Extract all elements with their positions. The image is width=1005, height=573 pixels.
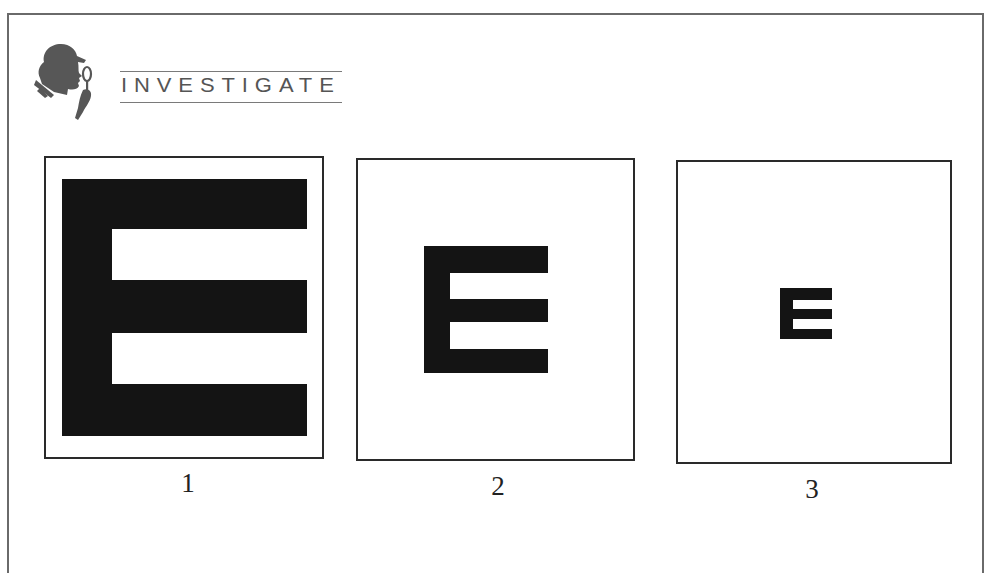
- logo-title: INVESTIGATE: [121, 75, 341, 97]
- e-middle-arm: [780, 309, 832, 319]
- letter-e-large: [62, 179, 307, 436]
- e-top-arm: [62, 179, 307, 229]
- e-bottom-arm: [780, 329, 832, 339]
- logo-wordmark: INVESTIGATE: [120, 71, 342, 103]
- e-top-arm: [424, 246, 548, 273]
- e-bottom-arm: [62, 384, 307, 436]
- panel-1-label: 1: [168, 468, 208, 498]
- letter-e-small: [780, 288, 832, 339]
- e-middle-arm: [424, 299, 548, 322]
- e-bottom-arm: [424, 349, 548, 373]
- e-top-arm: [780, 288, 832, 300]
- letter-e-medium: [424, 246, 548, 373]
- panel-1: [44, 156, 324, 459]
- detective-magnifier-icon: [34, 42, 94, 120]
- e-middle-arm: [62, 280, 307, 333]
- panel-3: [676, 160, 952, 464]
- panel-3-label: 3: [792, 474, 832, 504]
- panel-2-label: 2: [478, 471, 518, 501]
- panel-2: [356, 158, 635, 461]
- investigate-logo: INVESTIGATE: [34, 42, 354, 122]
